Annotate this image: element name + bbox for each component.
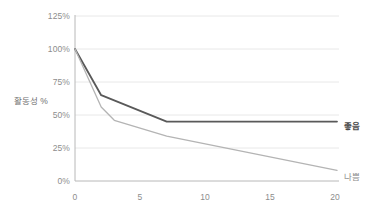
y-axis-title: 활동성 %: [14, 94, 48, 106]
activity-decay-line-chart: 125% 100% 75% 50% 25% 0% 0 5 10 15 20 활동…: [0, 0, 373, 219]
y-tick-label-50: 50%: [53, 110, 70, 120]
series-label-bad: 나쁨: [344, 170, 360, 182]
gridlines-group: [75, 16, 339, 148]
x-tick-label-5: 5: [138, 192, 143, 202]
x-tick-label-15: 15: [265, 192, 275, 202]
y-tick-label-125: 125%: [48, 11, 70, 21]
y-tick-label-75: 75%: [53, 77, 70, 87]
x-tick-label-0: 0: [73, 192, 78, 202]
x-tick-label-10: 10: [200, 192, 210, 202]
axis-lines-group: [75, 15, 339, 181]
series-label-good: 좋음: [344, 119, 360, 131]
series-line-bad: [75, 49, 337, 170]
y-tick-label-25: 25%: [53, 143, 70, 153]
series-lines-group: [75, 49, 337, 170]
series-line-good: [75, 49, 337, 122]
y-tick-label-100: 100%: [48, 44, 70, 54]
y-tick-label-0: 0%: [58, 176, 71, 186]
x-tick-label-20: 20: [330, 192, 340, 202]
